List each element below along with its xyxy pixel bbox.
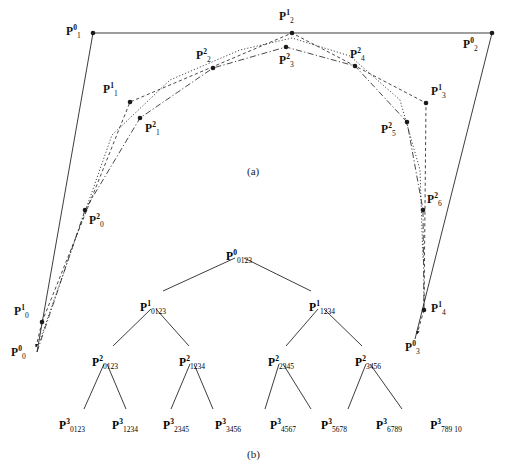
caption-b: (b)	[247, 448, 260, 460]
tree-node-l1a[interactable]: P10123	[140, 302, 166, 314]
tree-node-root[interactable]: P00123	[226, 251, 252, 263]
control-point-P2_1[interactable]	[138, 116, 143, 121]
control-point-P1_4[interactable]	[422, 308, 427, 313]
control-point-P2_0[interactable]	[83, 208, 88, 213]
point-label-P2_3: P23	[279, 55, 294, 67]
tree-node-l3f[interactable]: P35678	[321, 420, 347, 432]
control-point-P1_2[interactable]	[290, 31, 295, 36]
tree-node-l2c[interactable]: P22345	[268, 357, 294, 369]
point-label-P1_0: P10	[14, 306, 29, 318]
tree-edge-l2b-to-l3c	[171, 364, 190, 409]
point-label-P1_4: P14	[431, 303, 446, 315]
figure-root: P01P02P10P11P12P13P14P20P21P22P23P24P25P…	[0, 0, 513, 467]
control-point-P2_4[interactable]	[353, 64, 358, 69]
tree-node-l3d[interactable]: P33456	[215, 420, 241, 432]
control-point-P0_2[interactable]	[490, 31, 495, 36]
point-label-P2_4: P24	[350, 49, 365, 61]
tree-edge-root-to-l1a	[163, 258, 235, 291]
control-point-P1_3[interactable]	[424, 101, 429, 106]
tree-node-l3e[interactable]: P34567	[270, 420, 296, 432]
point-label-P2_1: P21	[145, 123, 160, 135]
control-point-P0_1[interactable]	[91, 31, 96, 36]
point-label-P0_1: P01	[66, 26, 81, 38]
point-label-P2_5: P25	[381, 124, 396, 136]
tree-edge-l2d-to-l3g	[348, 364, 366, 409]
caption-a: (a)	[247, 165, 259, 177]
panel-a-control-points	[40, 31, 495, 325]
tree-node-l3b[interactable]: P31234	[112, 420, 138, 432]
tree-edge-l2c-to-l3e	[265, 364, 279, 409]
figure-vector-layer	[0, 0, 513, 467]
panel-a-arrow-segments	[36, 310, 424, 347]
point-label-P2_6: P26	[427, 194, 442, 206]
tree-edge-l2a-to-l3a	[84, 364, 104, 409]
control-point-P1_1[interactable]	[128, 100, 133, 105]
point-label-P2_2: P22	[196, 50, 211, 62]
tree-node-l3c[interactable]: P32345	[163, 420, 189, 432]
control-point-P2_6[interactable]	[421, 208, 426, 213]
point-label-P1_2: P12	[279, 11, 294, 23]
tree-node-l2a[interactable]: P20123	[92, 357, 118, 369]
point-label-P1_3: P13	[431, 86, 446, 98]
tree-edge-l1a-to-l2a	[113, 309, 151, 346]
point-label-P2_0: P20	[89, 215, 104, 227]
control-point-P2_3[interactable]	[284, 45, 289, 50]
polyline-control-polygon-level1	[42, 33, 426, 322]
tree-node-l1b[interactable]: P11234	[309, 302, 335, 314]
control-point-P1_0[interactable]	[40, 320, 45, 325]
polyline-control-polygon-level2	[37, 47, 424, 352]
tree-node-l2b[interactable]: P21234	[179, 357, 205, 369]
tree-node-l3a[interactable]: P30123	[59, 420, 85, 432]
tree-node-l3h[interactable]: P3789 10	[430, 420, 461, 432]
arrow-to-P0-0	[36, 322, 42, 347]
tree-edge-root-to-l1b	[244, 258, 311, 291]
panel-b-tree-edges	[84, 258, 402, 409]
control-point-P2_2[interactable]	[211, 66, 216, 71]
point-label-P0_0: P00	[11, 347, 26, 359]
polyline-refined-curve	[40, 38, 423, 340]
control-point-P2_5[interactable]	[405, 120, 410, 125]
point-label-P1_1: P11	[103, 84, 118, 96]
tree-node-l2d[interactable]: P23456	[355, 357, 381, 369]
point-label-P0_2: P02	[463, 39, 478, 51]
arrow-to-P0-3	[417, 310, 424, 334]
panel-a-polylines	[37, 33, 492, 352]
tree-node-l3g[interactable]: P36789	[376, 420, 402, 432]
tree-edge-l1b-to-l2c	[286, 309, 318, 346]
point-label-P0_3: P03	[405, 342, 420, 354]
